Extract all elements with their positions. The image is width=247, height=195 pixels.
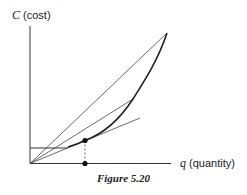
total-cost-curve bbox=[68, 33, 167, 147]
ray-to-peak bbox=[30, 33, 167, 164]
x-axis-label: q (quantity) bbox=[180, 156, 235, 171]
y-axis-symbol: C bbox=[12, 8, 20, 22]
curve-point bbox=[82, 138, 87, 143]
ray-to-middle bbox=[30, 99, 133, 164]
x-axis-text: (quantity) bbox=[189, 157, 235, 169]
y-axis-text: (cost) bbox=[23, 9, 51, 21]
x-axis-symbol: q bbox=[180, 156, 186, 170]
figure-caption: Figure 5.20 bbox=[0, 172, 247, 184]
axis-point bbox=[82, 161, 87, 166]
y-axis-label: C (cost) bbox=[12, 8, 51, 23]
